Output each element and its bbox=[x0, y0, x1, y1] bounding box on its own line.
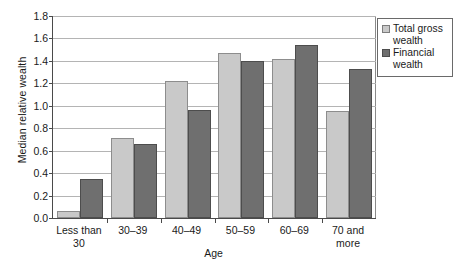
bar bbox=[241, 61, 264, 218]
bar bbox=[272, 59, 295, 218]
gridline bbox=[53, 38, 376, 39]
bar bbox=[80, 179, 103, 218]
y-axis-tick-label: 1.4 bbox=[18, 56, 48, 66]
y-axis-tick-label: 0.6 bbox=[18, 146, 48, 156]
x-axis-tick-label: 70 and more bbox=[308, 224, 388, 249]
x-axis-tick-mark bbox=[161, 218, 162, 223]
y-axis-tick-mark bbox=[49, 83, 53, 84]
bar bbox=[188, 110, 211, 218]
x-axis-tick-mark bbox=[107, 218, 108, 223]
bar bbox=[134, 144, 157, 218]
x-axis-title: Age bbox=[52, 247, 375, 259]
y-axis-tick-label: 1.0 bbox=[18, 101, 48, 111]
y-axis-tick-label: 0.4 bbox=[18, 168, 48, 178]
x-axis-tick-mark bbox=[215, 218, 216, 223]
legend-item: Financial wealth bbox=[382, 47, 449, 70]
y-axis-tick-label: 1.8 bbox=[18, 11, 48, 21]
plot-area bbox=[52, 16, 376, 219]
bar bbox=[295, 45, 318, 218]
gridline bbox=[53, 61, 376, 62]
bar bbox=[57, 211, 80, 218]
plot-right-border bbox=[375, 16, 376, 218]
y-axis-tick-mark bbox=[49, 151, 53, 152]
y-axis-tick-mark bbox=[49, 16, 53, 17]
gridline bbox=[53, 106, 376, 107]
legend-item-label: Financial wealth bbox=[393, 47, 449, 70]
y-axis-tick-label: 0.8 bbox=[18, 123, 48, 133]
bar bbox=[349, 69, 372, 218]
chart-legend: Total gross wealthFinancial wealth bbox=[377, 18, 453, 77]
bar bbox=[326, 111, 349, 218]
x-axis-tick-mark bbox=[268, 218, 269, 223]
gridline bbox=[53, 83, 376, 84]
y-axis-tick-mark bbox=[49, 218, 53, 219]
bar bbox=[218, 53, 241, 218]
legend-item: Total gross wealth bbox=[382, 23, 449, 46]
legend-item-label: Total gross wealth bbox=[393, 23, 449, 46]
y-axis-tick-mark bbox=[49, 106, 53, 107]
y-axis-tick-mark bbox=[49, 196, 53, 197]
y-axis-tick-mark bbox=[49, 128, 53, 129]
y-axis-tick-mark bbox=[49, 61, 53, 62]
y-axis-tick-label: 0.2 bbox=[18, 191, 48, 201]
bar bbox=[165, 81, 188, 218]
y-axis-tick-label: 1.6 bbox=[18, 33, 48, 43]
legend-swatch-icon bbox=[382, 25, 390, 33]
gridline bbox=[53, 16, 376, 17]
y-axis-tick-mark bbox=[49, 38, 53, 39]
y-axis-tick-mark bbox=[49, 173, 53, 174]
x-axis-tick-mark bbox=[322, 218, 323, 223]
bar-chart-figure: Median relative wealth 0.00.20.40.60.81.… bbox=[0, 0, 457, 269]
bar bbox=[111, 138, 134, 218]
y-axis-tick-label: 1.2 bbox=[18, 78, 48, 88]
y-axis-tick-label: 0.0 bbox=[18, 213, 48, 223]
legend-swatch-icon bbox=[382, 49, 390, 57]
